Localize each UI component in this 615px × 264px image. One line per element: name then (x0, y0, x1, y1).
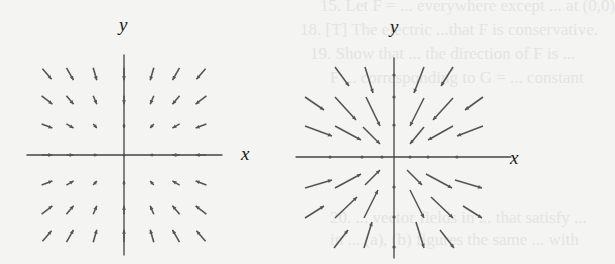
vector-arrow-icon (366, 97, 380, 126)
vector-arrow-icon (392, 73, 395, 76)
left-x-axis-label: x (241, 143, 249, 165)
vector-arrow-icon (335, 67, 349, 86)
vector-arrow-icon (457, 126, 483, 136)
vector-arrow-icon (455, 155, 458, 158)
vector-arrow-icon (408, 155, 411, 158)
vector-arrow-icon (465, 97, 483, 110)
vector-arrow-icon (410, 127, 424, 144)
vector-arrow-icon (363, 127, 380, 144)
vector-arrow-icon (410, 190, 424, 218)
vector-arrow-icon (392, 95, 395, 98)
vector-arrow-icon (392, 245, 395, 248)
vector-arrow-icon (364, 222, 373, 248)
vector-arrow-icon (455, 180, 482, 189)
vector-arrow-icon (440, 230, 454, 248)
vector-arrow-icon (305, 126, 332, 136)
vector-arrow-icon (414, 67, 424, 93)
vector-arrow-icon (416, 222, 425, 248)
vector-arrow-icon (426, 174, 452, 188)
vector-arrow-icon (392, 215, 395, 218)
vector-arrow-icon (410, 98, 424, 126)
vector-arrow-icon (407, 170, 422, 185)
vector-arrow-icon (433, 98, 453, 120)
vector-arrow-icon (365, 67, 374, 93)
right-y-axis-label: y (390, 16, 398, 38)
vector-arrow-icon (463, 206, 482, 218)
vector-arrow-icon (335, 126, 361, 140)
left-y-axis-label: y (119, 14, 127, 36)
vector-arrow-icon (335, 197, 357, 218)
vector-arrow-icon (365, 170, 380, 185)
vector-arrow-icon (428, 126, 453, 140)
vector-arrow-icon (305, 179, 332, 188)
vector-arrow-icon (392, 123, 395, 126)
vector-arrow-icon (305, 97, 324, 110)
vector-arrow-icon (426, 155, 429, 158)
vector-arrow-icon (392, 185, 395, 188)
vector-arrow-icon (431, 197, 453, 218)
vector-arrow-icon (334, 230, 348, 248)
vector-arrow-icon (364, 190, 378, 218)
vector-arrow-icon (335, 174, 361, 188)
vector-arrow-icon (380, 155, 383, 158)
vector-arrow-icon (305, 206, 324, 218)
vector-arrow-icon (441, 67, 453, 86)
vector-arrow-icon (328, 155, 331, 158)
vector-arrow-icon (360, 155, 363, 158)
right-x-axis-label: x (510, 147, 518, 169)
vector-arrow-icon (335, 97, 356, 120)
